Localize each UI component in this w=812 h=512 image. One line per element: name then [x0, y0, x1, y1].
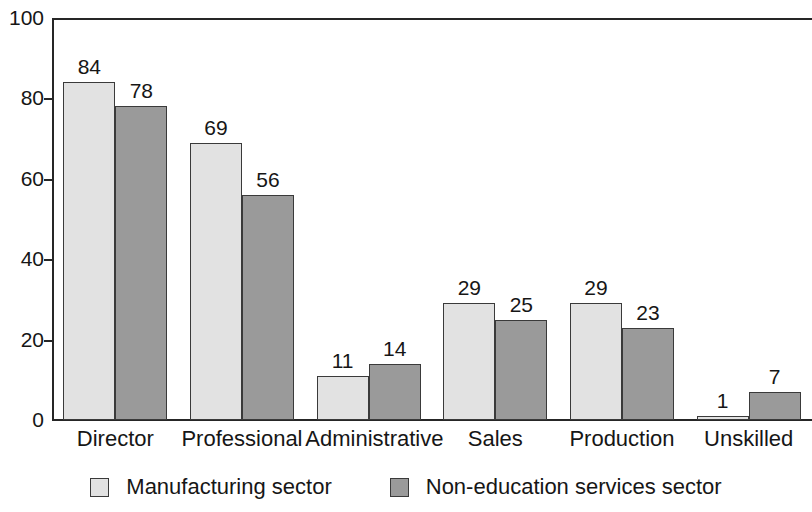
chart-legend: Manufacturing sector Non-education servi… — [0, 470, 812, 504]
bar-value-label: 29 — [443, 277, 495, 298]
y-tick-label: 0 — [0, 409, 44, 430]
bar-value-label: 11 — [317, 350, 369, 371]
bar-value-label: 14 — [369, 338, 421, 359]
bar-value-label: 1 — [697, 390, 749, 411]
y-tick-label: 80 — [0, 87, 44, 108]
bar — [749, 392, 801, 420]
x-axis-category-label: Unskilled — [685, 426, 812, 452]
bar-value-label: 69 — [190, 117, 242, 138]
bar — [369, 364, 421, 420]
bar-value-label: 25 — [495, 294, 547, 315]
bar — [242, 195, 294, 420]
light-square-swatch-icon — [90, 478, 109, 497]
x-axis-category-label: Administrative — [305, 426, 432, 452]
bar-value-label: 29 — [570, 277, 622, 298]
bar-chart: 020406080100 8478695611142925292317 Dire… — [0, 0, 812, 512]
bar — [697, 416, 749, 420]
legend-item-non-education-services-sector: Non-education services sector — [390, 475, 722, 499]
bars-layer: 8478695611142925292317 — [52, 18, 812, 420]
bar — [317, 376, 369, 420]
y-tick-label: 60 — [0, 168, 44, 189]
y-tick-label: 100 — [0, 7, 44, 28]
legend-label: Manufacturing sector — [126, 475, 331, 499]
bar-value-label: 78 — [115, 80, 167, 101]
x-axis-category-label: Production — [559, 426, 686, 452]
bar-value-label: 23 — [622, 302, 674, 323]
bar — [622, 328, 674, 420]
legend-label: Non-education services sector — [426, 475, 722, 499]
bar-value-label: 84 — [63, 56, 115, 77]
bar — [190, 143, 242, 420]
bar-value-label: 56 — [242, 169, 294, 190]
x-axis-category-label: Sales — [432, 426, 559, 452]
y-axis: 020406080100 — [0, 0, 44, 440]
bar — [570, 303, 622, 420]
bar — [63, 82, 115, 420]
bar — [443, 303, 495, 420]
x-axis-category-label: Director — [52, 426, 179, 452]
y-tick-label: 20 — [0, 329, 44, 350]
bar — [115, 106, 167, 420]
bar-value-label: 7 — [749, 366, 801, 387]
y-tick-label: 40 — [0, 248, 44, 269]
x-axis-category-label: Professional — [179, 426, 306, 452]
dark-square-swatch-icon — [390, 478, 409, 497]
x-axis-labels: DirectorProfessionalAdministrativeSalesP… — [52, 426, 812, 456]
legend-item-manufacturing-sector: Manufacturing sector — [90, 475, 331, 499]
bar — [495, 320, 547, 421]
